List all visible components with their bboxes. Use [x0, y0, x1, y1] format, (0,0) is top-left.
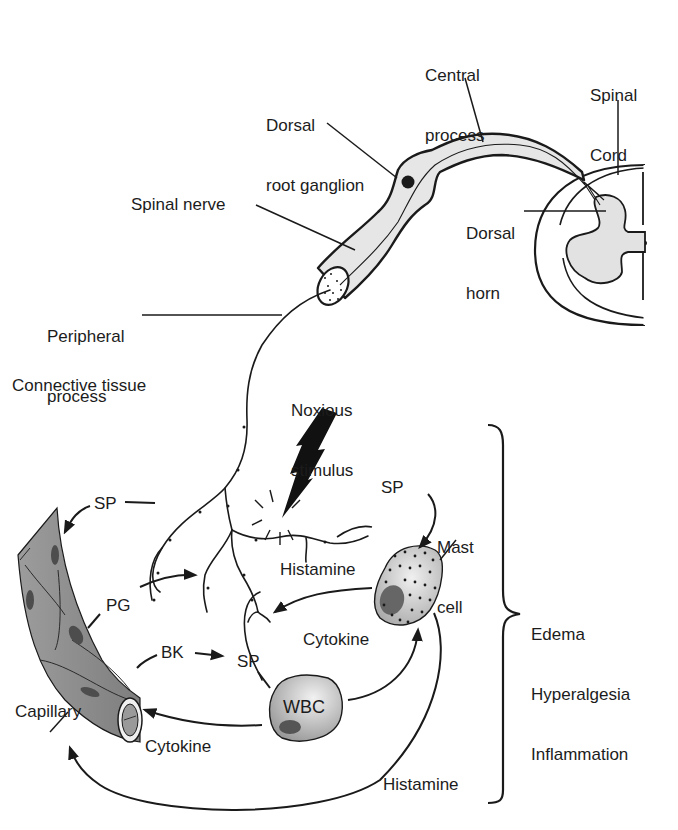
- effects-bracket: [488, 425, 520, 803]
- label-line: process: [425, 126, 485, 146]
- label-bk-bradykinin: BK: [161, 643, 184, 663]
- label-spinal-nerve: Spinal nerve: [131, 195, 226, 215]
- label-line: Dorsal: [466, 224, 515, 244]
- label-histamine-lower: Histamine: [383, 775, 459, 795]
- label-sp-substance-p-left: SP: [94, 494, 117, 514]
- label-central-process: Central process: [425, 26, 485, 166]
- label-histamine-upper: Histamine: [280, 560, 356, 580]
- label-noxious-stimulus: Noxious stimulus: [291, 361, 353, 501]
- label-line: Central: [425, 66, 485, 86]
- label-line: horn: [466, 284, 515, 304]
- label-cytokine-bottom: Cytokine: [145, 737, 211, 757]
- drg-cell-body: [402, 176, 415, 189]
- label-line: root ganglion: [266, 176, 364, 196]
- label-effects: Edema Hyperalgesia Inflammation: [531, 585, 630, 785]
- label-spinal-cord: Spinal Cord: [590, 46, 637, 186]
- label-capillary: Capillary: [15, 702, 81, 722]
- label-peripheral-process: Peripheral process: [47, 287, 125, 427]
- label-line: stimulus: [291, 461, 353, 481]
- diagram-canvas: Central process Spinal Cord Dorsal root …: [0, 0, 678, 830]
- label-sp-substance-p-right: SP: [381, 478, 404, 498]
- label-wbc: WBC: [283, 697, 325, 717]
- label-line: Mast: [437, 538, 474, 558]
- label-line: Dorsal: [266, 116, 364, 136]
- mast-cell: [375, 546, 443, 625]
- label-dorsal-horn: Dorsal horn: [466, 184, 515, 324]
- effect-hyperalgesia: Hyperalgesia: [531, 685, 630, 705]
- label-connective-tissue: Connective tissue: [12, 376, 146, 396]
- label-line: Noxious: [291, 401, 353, 421]
- label-line: Cord: [590, 146, 637, 166]
- label-line: Peripheral: [47, 327, 125, 347]
- label-pg-prostaglandin: PG: [106, 596, 131, 616]
- effect-edema: Edema: [531, 625, 630, 645]
- label-line: cell: [437, 598, 474, 618]
- label-mast-cell: Mast cell: [437, 498, 474, 638]
- label-sp-substance-p-center: SP: [237, 652, 260, 672]
- label-line: Spinal: [590, 86, 637, 106]
- label-cytokine-right: Cytokine: [303, 630, 369, 650]
- effect-inflammation: Inflammation: [531, 745, 630, 765]
- label-dorsal-root-ganglion: Dorsal root ganglion: [266, 76, 364, 216]
